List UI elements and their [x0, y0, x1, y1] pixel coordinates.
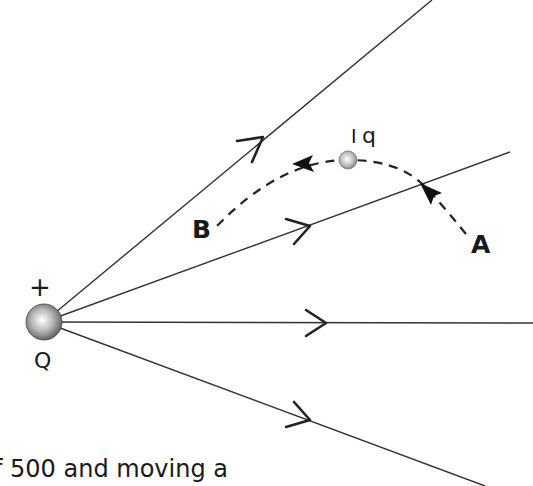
field-line-upper-middle	[44, 152, 510, 322]
test-charge-tick-label: I	[351, 125, 357, 147]
test-charge-label: q	[362, 123, 376, 148]
source-charge-label: Q	[34, 348, 51, 373]
path-arrowhead-near-a	[420, 183, 442, 205]
source-charge-q	[26, 304, 62, 340]
caption-text-fragment: f 500 and moving a	[0, 455, 228, 483]
point-a-label: A	[471, 230, 491, 259]
source-charge-sign: +	[29, 272, 51, 302]
diagram-canvas: I q + Q B A	[0, 0, 533, 486]
arrowhead-upper-middle	[286, 219, 310, 244]
point-b-label: B	[192, 215, 211, 244]
arrowhead-lower	[286, 402, 310, 427]
test-charge-q	[339, 151, 357, 169]
field-line-horizontal	[44, 322, 533, 323]
